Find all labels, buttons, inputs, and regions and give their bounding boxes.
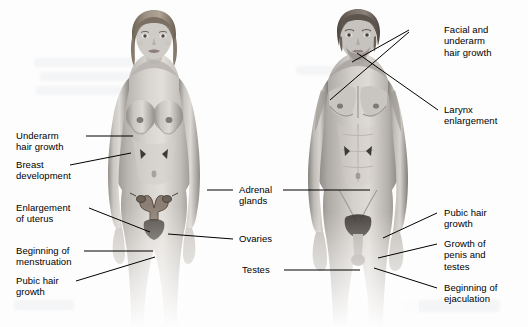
label-growth-of-penis-and-testes: Growth of penis and testes [444,238,486,272]
label-larynx-enlargement: Larynx enlargement [444,104,497,127]
label-beginning-of-menstruation: Beginning of menstruation [16,245,72,268]
label-enlargement-of-uterus: Enlargement of uterus [16,202,70,225]
label-testes: Testes [242,264,270,275]
label-facial-and-underarm-hair-growth: Facial and underarm hair growth [444,24,492,58]
label-pubic-hair-growth-male: Pubic hair growth [444,207,487,230]
leader-pubic-hair-growth-male [383,213,437,238]
label-ovaries: Ovaries [239,233,272,244]
leader-larynx-enlargement [357,53,438,110]
leader-breast-development [70,153,131,165]
leader-underarm-hair-male [330,32,409,100]
label-adrenal-glands: Adrenal glands [239,184,272,207]
leader-enlargement-of-uterus [89,208,150,232]
label-beginning-of-ejaculation: Beginning of ejaculation [444,282,497,305]
diagram-canvas: Underarm hair growth Breast development … [0,0,528,327]
leader-facial-hair [352,30,409,62]
leader-growth-of-penis-and-testes [378,244,437,258]
label-breast-development: Breast development [16,159,71,182]
leader-ovaries [168,234,233,239]
label-underarm-hair-growth: Underarm hair growth [16,130,64,153]
leader-pubic-hair-growth-female [76,257,155,281]
label-pubic-hair-growth-female: Pubic hair growth [16,275,59,298]
leader-beginning-of-ejaculation [374,268,437,288]
